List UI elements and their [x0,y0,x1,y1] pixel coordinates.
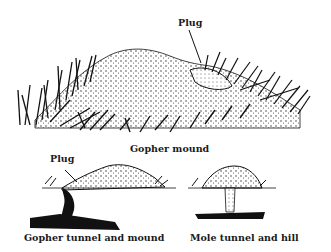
mole-tunnel-caption: Mole tunnel and hill [190,232,299,243]
plug-callout-main: Plug [178,17,202,28]
gopher-tunnel-diagram [30,165,176,230]
mole-tunnel-diagram [188,166,276,219]
plug-callout-gopher: Plug [50,153,74,164]
gopher-tunnel-caption: Gopher tunnel and mound [24,232,164,243]
gopher-mound-illustration [18,30,310,132]
gopher-mound-caption: Gopher mound [130,143,209,154]
figure-illustration [0,0,331,252]
